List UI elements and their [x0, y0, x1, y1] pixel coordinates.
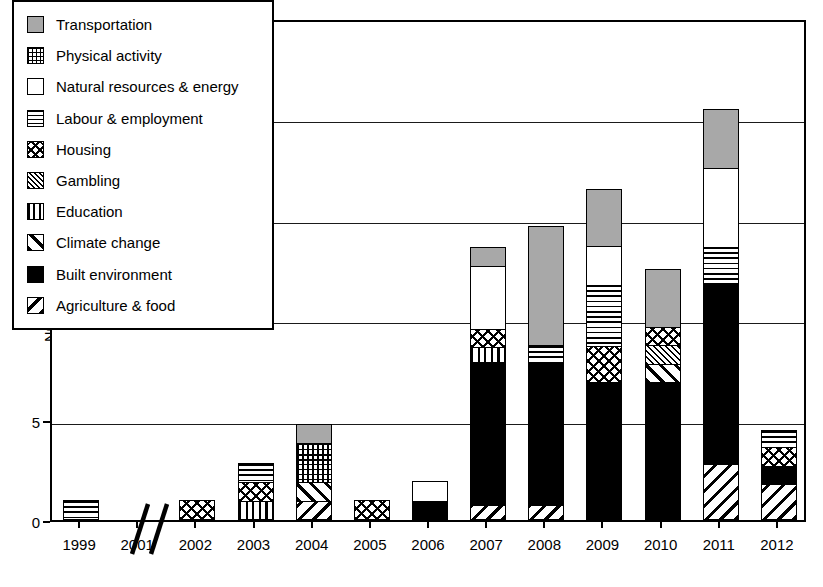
legend-swatch-housing-icon [27, 141, 44, 158]
bar-segment-2011-transportation[interactable] [703, 109, 739, 169]
legend-item-physical-activity[interactable]: Physical activity [14, 40, 272, 71]
legend-item-climate-change[interactable]: Climate change [14, 227, 272, 258]
x-tick-label-2007: 2007 [469, 536, 502, 553]
bar-segment-2008-labour-employment[interactable] [528, 345, 564, 363]
legend-item-label: Climate change [56, 234, 160, 251]
x-tick-mark-2005 [369, 522, 371, 528]
bar-segment-2004-climate-change[interactable] [296, 481, 332, 501]
x-tick-mark-2010 [660, 522, 662, 528]
bar-segment-2011-labour-employment[interactable] [703, 246, 739, 286]
bar-segment-2007-education[interactable] [470, 347, 506, 363]
bar-segment-2012-labour-employment[interactable] [761, 430, 797, 448]
legend-item-label: Built environment [56, 266, 172, 283]
legend-item-transportation[interactable]: Transportation [14, 9, 272, 40]
bar-segment-2010-climate-change[interactable] [645, 363, 681, 383]
bar-segment-2011-natural-resources-energy[interactable] [703, 167, 739, 247]
x-tick-mark-2004 [311, 522, 313, 528]
legend-swatch-climate-change-icon [27, 234, 44, 251]
bar-2010[interactable] [645, 263, 681, 520]
bar-segment-2005-housing[interactable] [354, 500, 390, 520]
bar-segment-2007-housing[interactable] [470, 328, 506, 348]
x-tick-label-2001: 2001 [121, 536, 154, 553]
x-tick-mark-2009 [601, 522, 603, 528]
bar-segment-2004-agriculture-food[interactable] [296, 500, 332, 520]
legend-item-housing[interactable]: Housing [14, 134, 272, 165]
legend-item-gambling[interactable]: Gambling [14, 165, 272, 196]
chart-legend: TransportationPhysical activityNatural r… [12, 0, 274, 330]
bar-segment-2003-education[interactable] [238, 500, 274, 520]
bar-segment-2002-housing[interactable] [179, 500, 215, 520]
y-tick-mark-0 [43, 521, 50, 523]
bar-segment-1999-labour-employment[interactable] [63, 500, 99, 520]
legend-item-natural-resources-energy[interactable]: Natural resources & energy [14, 71, 272, 102]
x-tick-label-2004: 2004 [295, 536, 328, 553]
bar-segment-2006-natural-resources-energy[interactable] [412, 481, 448, 501]
bar-segment-2008-agriculture-food[interactable] [528, 504, 564, 520]
legend-swatch-labour-employment-icon [27, 110, 44, 127]
bar-segment-2010-transportation[interactable] [645, 269, 681, 327]
bar-segment-2009-labour-employment[interactable] [586, 284, 622, 346]
bar-segment-2009-transportation[interactable] [586, 189, 622, 247]
bar-segment-2009-housing[interactable] [586, 345, 622, 383]
legend-item-agriculture-food[interactable]: Agriculture & food [14, 290, 272, 321]
bar-2007[interactable] [470, 239, 506, 520]
x-tick-mark-2011 [718, 522, 720, 528]
legend-swatch-natural-resources-energy-icon [27, 78, 44, 95]
bar-segment-2010-built-environment[interactable] [645, 381, 681, 520]
legend-swatch-physical-activity-icon [27, 47, 44, 64]
bar-2012[interactable] [761, 426, 797, 520]
gridline-y-5 [52, 424, 804, 425]
x-tick-mark-2003 [253, 522, 255, 528]
bar-segment-2008-transportation[interactable] [528, 226, 564, 346]
legend-item-label: Natural resources & energy [56, 78, 239, 95]
bar-2004[interactable] [296, 420, 332, 520]
x-tick-label-2006: 2006 [411, 536, 444, 553]
bar-segment-2007-natural-resources-energy[interactable] [470, 265, 506, 329]
bar-2005[interactable] [354, 500, 390, 520]
bar-segment-2009-natural-resources-energy[interactable] [586, 246, 622, 286]
legend-swatch-built-environment-icon [27, 266, 44, 283]
bar-segment-2004-transportation[interactable] [296, 424, 332, 444]
bar-segment-2012-housing[interactable] [761, 447, 797, 467]
legend-item-education[interactable]: Education [14, 196, 272, 227]
x-tick-mark-2006 [427, 522, 429, 528]
y-tick-mark-5 [43, 421, 50, 423]
x-tick-label-2010: 2010 [644, 536, 677, 553]
legend-swatch-gambling-icon [27, 172, 44, 189]
bar-segment-2010-housing[interactable] [645, 326, 681, 346]
bar-segment-2011-built-environment[interactable] [703, 285, 739, 466]
legend-item-label: Housing [56, 141, 111, 158]
bar-segment-2008-built-environment[interactable] [528, 361, 564, 506]
x-tick-label-2005: 2005 [353, 536, 386, 553]
x-tick-label-2002: 2002 [179, 536, 212, 553]
bar-1999[interactable] [63, 500, 99, 520]
legend-item-label: Transportation [56, 16, 152, 33]
bar-2008[interactable] [528, 221, 564, 520]
legend-swatch-education-icon [27, 203, 44, 220]
bar-segment-2011-agriculture-food[interactable] [703, 464, 739, 520]
bar-segment-2012-agriculture-food[interactable] [761, 484, 797, 520]
bar-segment-2009-built-environment[interactable] [586, 381, 622, 520]
bar-2006[interactable] [412, 480, 448, 520]
legend-item-labour-employment[interactable]: Labour & employment [14, 103, 272, 134]
bar-2009[interactable] [586, 183, 622, 520]
bar-segment-2007-agriculture-food[interactable] [470, 504, 506, 520]
chart-figure: Number of HIA 0510152025 199920012002200… [0, 0, 823, 587]
x-tick-label-2011: 2011 [703, 536, 735, 553]
bar-segment-2004-physical-activity[interactable] [296, 443, 332, 483]
x-tick-mark-2012 [776, 522, 778, 528]
bar-segment-2003-housing[interactable] [238, 481, 274, 501]
bar-2002[interactable] [179, 500, 215, 520]
bar-segment-2006-built-environment[interactable] [412, 500, 448, 520]
bar-segment-2007-transportation[interactable] [470, 247, 506, 267]
bar-2011[interactable] [703, 102, 739, 520]
bar-segment-2003-labour-employment[interactable] [238, 463, 274, 483]
bar-segment-2007-built-environment[interactable] [470, 361, 506, 506]
bar-2003[interactable] [238, 460, 274, 520]
bar-segment-2012-built-environment[interactable] [761, 465, 797, 485]
legend-item-built-environment[interactable]: Built environment [14, 259, 272, 290]
x-tick-mark-2007 [485, 522, 487, 528]
bar-segment-2010-gambling[interactable] [645, 344, 681, 364]
x-tick-label-2008: 2008 [528, 536, 561, 553]
y-tick-label-0: 0 [0, 514, 40, 531]
